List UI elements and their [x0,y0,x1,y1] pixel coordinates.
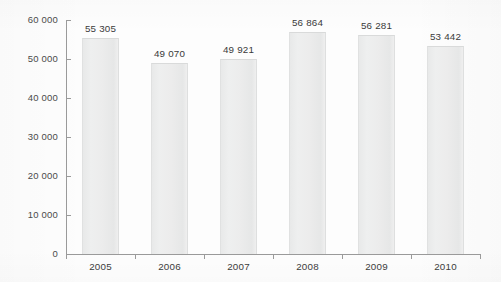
y-tick-mark [66,98,71,99]
y-tick-mark [66,20,71,21]
y-tick-mark [66,59,71,60]
y-tick-label: 40 000 [0,92,58,103]
x-tick-mark [66,254,67,259]
bar-value-label-2008: 56 864 [268,17,348,28]
y-tick-label: 10 000 [0,209,58,220]
y-tick-label: 50 000 [0,53,58,64]
bar-2010 [427,46,464,254]
bar-2008 [289,32,326,254]
bar-value-label-2005: 55 305 [61,23,141,34]
y-tick-label: 60 000 [0,14,58,25]
y-tick-mark [66,215,71,216]
x-axis-label-2006: 2006 [140,261,200,272]
bar-value-label-2010: 53 442 [406,31,486,42]
bar-2009 [358,35,395,254]
x-axis-label-2008: 2008 [278,261,338,272]
y-tick-mark [66,137,71,138]
bar-value-label-2009: 56 281 [337,20,417,31]
bar-value-label-2006: 49 070 [130,48,210,59]
bar-2006 [151,63,188,254]
bar-2005 [82,38,119,254]
x-axis-label-2005: 2005 [71,261,131,272]
x-tick-mark [411,254,412,259]
x-axis-label-2009: 2009 [347,261,407,272]
plot-area: 010 00020 00030 00040 00050 00060 000 55… [0,0,501,282]
x-axis-label-2010: 2010 [416,261,476,272]
bar-chart: 010 00020 00030 00040 00050 00060 000 55… [0,0,501,282]
x-tick-mark [480,254,481,259]
x-tick-mark [204,254,205,259]
y-tick-label: 0 [0,248,58,259]
x-tick-mark [135,254,136,259]
x-tick-mark [342,254,343,259]
y-tick-label: 20 000 [0,170,58,181]
bar-value-label-2007: 49 921 [199,44,279,55]
bar-2007 [220,59,257,254]
y-tick-mark [66,176,71,177]
x-tick-mark [273,254,274,259]
x-axis-label-2007: 2007 [209,261,269,272]
y-tick-label: 30 000 [0,131,58,142]
